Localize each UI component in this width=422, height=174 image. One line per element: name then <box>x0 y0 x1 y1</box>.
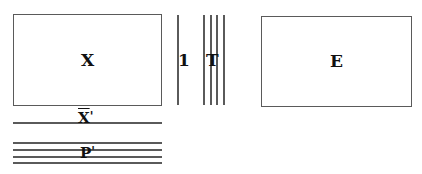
p-rows-label: P' <box>80 146 95 161</box>
p-row-line-4 <box>13 162 162 164</box>
matrix-t-line-4 <box>223 15 225 105</box>
vector-one-label: 1 <box>178 52 190 69</box>
matrix-x-box: X <box>13 14 162 106</box>
xbar-row-label: X' <box>78 111 93 126</box>
matrix-e-box: E <box>261 16 412 107</box>
p-rows-prime: ' <box>91 145 95 159</box>
matrix-t-label: T <box>205 52 220 69</box>
p-rows-letter: P <box>80 144 91 162</box>
xbar-row-letter: X <box>78 109 90 127</box>
xbar-row-prime: ' <box>90 110 94 124</box>
matrix-e-label: E <box>330 53 343 70</box>
matrix-x-label: X <box>81 52 94 69</box>
